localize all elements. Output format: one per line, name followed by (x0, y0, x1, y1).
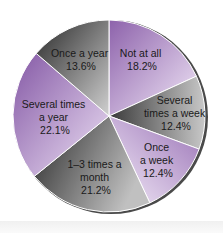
label-once-a-week: Once a week 12.4% (140, 141, 176, 179)
bottom-band (0, 221, 223, 233)
pie-chart: Not at all 18.2% Several times a week 12… (0, 0, 223, 233)
